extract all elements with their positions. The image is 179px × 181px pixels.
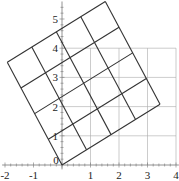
x-tick-label: 3	[145, 169, 151, 181]
y-tick-label: 4	[53, 42, 59, 54]
y-tick-label: 3	[53, 71, 59, 83]
y-tick-label: 1	[53, 130, 59, 142]
x-tick-label: 1	[88, 169, 94, 181]
rotated-grid-line	[105, 1, 160, 104]
x-tick-label: 2	[116, 169, 122, 181]
unit-grid	[62, 48, 176, 165]
chart: -2-10123412345	[0, 0, 179, 181]
rotated-grid	[7, 1, 160, 165]
x-tick-label: -1	[29, 169, 38, 181]
plot-area: -2-10123412345	[0, 0, 179, 181]
x-tick-label: 4	[173, 169, 179, 181]
tick-labels: -2-10123412345	[0, 13, 179, 181]
rotated-grid-line	[81, 17, 136, 120]
y-tick-label: 5	[53, 13, 59, 25]
rotated-grid-line	[35, 53, 133, 114]
x-tick-label: -2	[0, 169, 9, 181]
x-tick-label: 0	[53, 154, 59, 166]
rotated-grid-line	[21, 27, 119, 88]
y-tick-label: 2	[53, 101, 59, 113]
